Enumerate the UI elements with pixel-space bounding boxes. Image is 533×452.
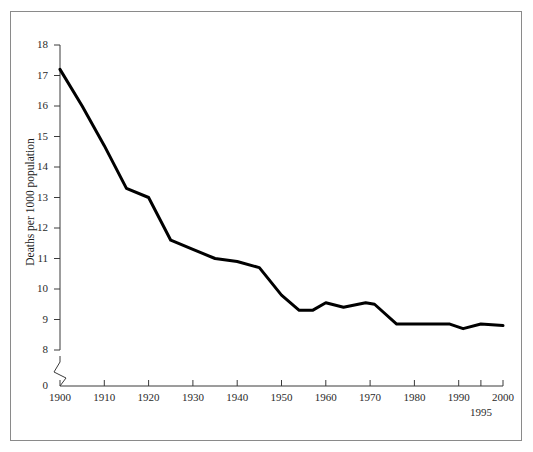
x-tick-label-1940: 1940 (217, 392, 257, 403)
x-tick-label-1950: 1950 (262, 392, 302, 403)
data-series-line (60, 69, 503, 328)
x-tick-label-1970: 1970 (350, 392, 390, 403)
x-tick-label-1900: 1900 (40, 392, 80, 403)
x-tick-label-1920: 1920 (129, 392, 169, 403)
y-tick-label-18: 18 (18, 39, 48, 50)
x-tick-marks (60, 380, 503, 386)
y-tick-label-8: 8 (18, 344, 48, 355)
plot-area (0, 0, 533, 452)
x-tick-label-1960: 1960 (306, 392, 346, 403)
x-tick-label-1980: 1980 (394, 392, 434, 403)
y-tick-label-9: 9 (18, 314, 48, 325)
chart-figure: 18 17 16 15 14 13 12 11 10 9 8 0 Deaths … (0, 0, 533, 452)
y-axis-title: Deaths per 1000 population (24, 112, 36, 292)
x-tick-label-1930: 1930 (173, 392, 213, 403)
y-tick-label-17: 17 (18, 70, 48, 81)
x-tick-label-1910: 1910 (84, 392, 124, 403)
x-tick-label-1995: 1995 (461, 407, 501, 418)
y-tick-label-0: 0 (18, 380, 48, 391)
y-tick-label-16: 16 (18, 100, 48, 111)
x-tick-label-1990: 1990 (439, 392, 479, 403)
y-tick-marks (54, 45, 60, 350)
x-tick-label-2000: 2000 (483, 392, 523, 403)
